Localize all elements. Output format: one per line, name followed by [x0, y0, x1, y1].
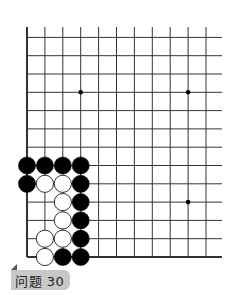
black-stone[interactable] [36, 157, 53, 174]
problem-label-text: 问题 30 [15, 271, 64, 290]
black-stone[interactable] [72, 230, 89, 247]
white-stone[interactable] [54, 175, 71, 192]
black-stone[interactable] [18, 157, 35, 174]
white-stone[interactable] [36, 248, 53, 265]
black-stone[interactable] [54, 248, 71, 265]
black-stone[interactable] [18, 175, 35, 192]
stones [18, 157, 89, 266]
star-point-icon [186, 200, 191, 205]
star-point-icon [78, 90, 83, 95]
white-stone[interactable] [36, 230, 53, 247]
black-stone[interactable] [72, 194, 89, 211]
go-board[interactable] [0, 0, 241, 295]
white-stone[interactable] [54, 230, 71, 247]
black-stone[interactable] [72, 212, 89, 229]
black-stone[interactable] [72, 157, 89, 174]
white-stone[interactable] [54, 212, 71, 229]
black-stone[interactable] [54, 157, 71, 174]
problem-label: 问题 30 [11, 270, 70, 290]
white-stone[interactable] [54, 194, 71, 211]
white-stone[interactable] [36, 175, 53, 192]
black-stone[interactable] [72, 175, 89, 192]
star-point-icon [186, 90, 191, 95]
black-stone[interactable] [72, 248, 89, 265]
